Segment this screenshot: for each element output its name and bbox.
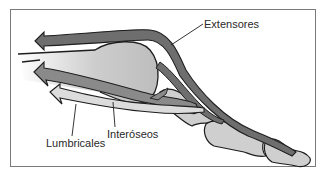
lumbricales-leader-line [72,104,76,136]
extensores-leader-line [171,24,203,45]
label-lumbricales: Lumbricales [46,138,105,149]
label-extensores: Extensores [204,19,259,30]
finger-anatomy-illustration [0,0,329,178]
label-interoseos: Interóseos [107,129,158,140]
